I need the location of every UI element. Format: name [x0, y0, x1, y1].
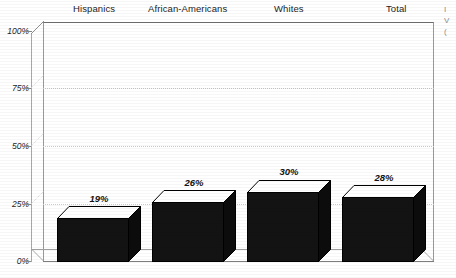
bar-hispanics[interactable] [57, 206, 153, 262]
y-axis: 100% 75% 50% 25% 0% [0, 0, 29, 278]
bar-hispanics-side [128, 206, 141, 262]
bar-total-front [342, 197, 414, 262]
side-note-line-2: V [444, 15, 456, 26]
bar-chart: Hispanics African-Americans Whites Total… [0, 0, 456, 278]
gridline-25-depth [31, 191, 45, 205]
bar-total-side [413, 185, 426, 262]
gridline-75 [43, 88, 434, 90]
bar-hispanics-front [57, 218, 129, 262]
bar-value-whites: 30% [247, 166, 331, 177]
category-header-whites: Whites [274, 3, 304, 14]
side-note-line-3: ( [444, 26, 456, 37]
side-note-line-1: I [444, 4, 456, 15]
gridline-50 [43, 146, 434, 148]
bar-value-total: 28% [342, 172, 426, 183]
side-note-cropped: I V ( [444, 4, 456, 37]
y-axis-label-100: 100% [1, 27, 29, 36]
y-axis-label-50: 50% [1, 142, 29, 151]
bar-african-americans-side [223, 190, 236, 262]
bar-total[interactable] [342, 185, 438, 262]
axis-back-edge [31, 34, 32, 262]
bar-african-americans[interactable] [152, 190, 248, 262]
bar-african-americans-front [152, 202, 224, 262]
y-axis-label-0: 0% [1, 257, 29, 266]
category-header-hispanics: Hispanics [73, 3, 115, 14]
bar-value-hispanics: 19% [57, 193, 141, 204]
bar-whites-front [247, 192, 319, 262]
category-header-african-americans: African-Americans [148, 3, 227, 14]
gridline-75-depth [31, 75, 45, 89]
gridline-50-depth [31, 133, 45, 147]
bar-value-african-americans: 26% [152, 177, 236, 188]
y-axis-label-25: 25% [1, 200, 29, 209]
category-header-total: Total [386, 3, 407, 14]
bar-whites[interactable] [247, 180, 343, 262]
y-axis-label-75: 75% [1, 84, 29, 93]
bar-whites-side [318, 180, 331, 262]
